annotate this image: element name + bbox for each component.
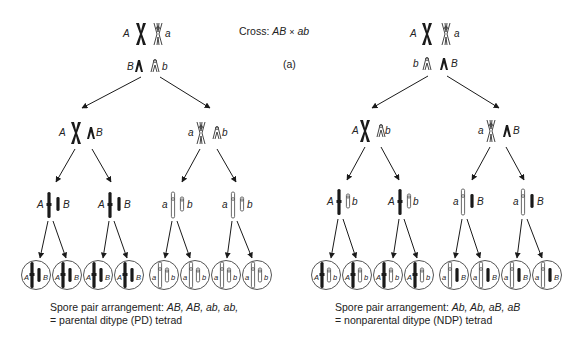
allele-label: b bbox=[162, 62, 168, 72]
spore-allele: A bbox=[117, 274, 122, 282]
allele-label: A bbox=[352, 126, 359, 136]
allele-label: B bbox=[96, 128, 103, 138]
allele-label: b bbox=[385, 126, 391, 136]
spore-allele: B bbox=[74, 274, 79, 282]
spore-allele: a bbox=[152, 274, 156, 282]
left-caption: Spore pair arrangement: AB, AB, ab, ab, … bbox=[50, 301, 238, 327]
allele-label: b bbox=[187, 200, 193, 210]
spore-allele: A bbox=[376, 274, 381, 282]
spore-allele: b bbox=[364, 274, 368, 282]
spore-allele: b bbox=[264, 274, 268, 282]
panel-label: (a) bbox=[283, 58, 296, 70]
spore-allele: A bbox=[24, 274, 29, 282]
spore-allele: B bbox=[136, 274, 141, 282]
cross-prefix: Cross: bbox=[239, 25, 272, 37]
allele-label: a bbox=[478, 126, 484, 136]
allele-label: b bbox=[413, 59, 419, 69]
spore-allele: b bbox=[333, 274, 337, 282]
cross-genotype-2: ab bbox=[297, 25, 309, 37]
spore-allele: a bbox=[245, 274, 249, 282]
left-tree-graphics bbox=[40, 23, 252, 258]
right-caption: Spore pair arrangement: Ab, Ab, aB, aB =… bbox=[335, 301, 520, 327]
spore-allele: a bbox=[183, 274, 187, 282]
allele-label: b bbox=[352, 197, 358, 207]
spore-allele: B bbox=[43, 274, 48, 282]
allele-label: B bbox=[477, 197, 484, 207]
allele-label: A bbox=[37, 200, 44, 210]
spore-allele: A bbox=[55, 274, 60, 282]
spore-allele: a bbox=[504, 274, 508, 282]
caption-values: Ab, Ab, aB, aB bbox=[452, 301, 521, 313]
spore-allele: b bbox=[395, 274, 399, 282]
spore-allele: a bbox=[535, 274, 539, 282]
spore-allele: b bbox=[233, 274, 237, 282]
spore-allele: A bbox=[314, 274, 319, 282]
allele-label: a bbox=[222, 200, 228, 210]
allele-label: b bbox=[413, 197, 419, 207]
right-tree-graphics bbox=[331, 23, 542, 258]
cross-title: Cross: AB × ab bbox=[239, 25, 309, 37]
spore-allele: B bbox=[523, 274, 528, 282]
spore-allele: a bbox=[473, 274, 477, 282]
spore-allele: b bbox=[171, 274, 175, 282]
allele-label: A bbox=[410, 29, 417, 39]
chromosome-icon bbox=[151, 60, 159, 73]
caption-prefix: Spore pair arrangement: bbox=[335, 301, 452, 313]
meiosis-diagram bbox=[0, 0, 580, 339]
allele-label: B bbox=[537, 197, 544, 207]
allele-label: a bbox=[162, 200, 168, 210]
spore-allele: b bbox=[202, 274, 206, 282]
allele-label: a bbox=[454, 29, 460, 39]
spore-allele: B bbox=[492, 274, 497, 282]
cross-genotype-1: AB bbox=[272, 25, 286, 37]
spore-allele: A bbox=[345, 274, 350, 282]
allele-label: B bbox=[63, 200, 70, 210]
allele-label: b bbox=[222, 128, 228, 138]
allele-label: B bbox=[513, 126, 520, 136]
caption-line2: = parental ditype (PD) tetrad bbox=[50, 314, 182, 326]
allele-label: A bbox=[388, 197, 395, 207]
caption-line2: = nonparental ditype (NDP) tetrad bbox=[335, 314, 492, 326]
caption-prefix: Spore pair arrangement: bbox=[50, 301, 167, 313]
spore-allele: A bbox=[86, 274, 91, 282]
allele-label: A bbox=[98, 200, 105, 210]
allele-label: A bbox=[59, 128, 66, 138]
chromosome-icon bbox=[154, 23, 162, 45]
cross-symbol: × bbox=[289, 27, 294, 37]
allele-label: b bbox=[247, 200, 253, 210]
allele-label: a bbox=[453, 197, 459, 207]
spore-allele: b bbox=[426, 274, 430, 282]
spore-allele: B bbox=[554, 274, 559, 282]
allele-label: A bbox=[123, 29, 130, 39]
caption-values: AB, AB, ab, ab, bbox=[167, 301, 238, 313]
spore-allele: a bbox=[442, 274, 446, 282]
chromosome-icon bbox=[136, 23, 146, 45]
chromosome-icon bbox=[135, 60, 143, 72]
spore-allele: B bbox=[105, 274, 110, 282]
allele-label: B bbox=[124, 200, 131, 210]
allele-label: B bbox=[127, 62, 134, 72]
allele-label: a bbox=[513, 197, 519, 207]
allele-label: A bbox=[327, 197, 334, 207]
allele-label: B bbox=[451, 59, 458, 69]
spore-allele: a bbox=[214, 274, 218, 282]
spore-allele: A bbox=[407, 274, 412, 282]
allele-label: a bbox=[165, 29, 171, 39]
allele-label: a bbox=[188, 128, 194, 138]
spore-allele: B bbox=[461, 274, 466, 282]
